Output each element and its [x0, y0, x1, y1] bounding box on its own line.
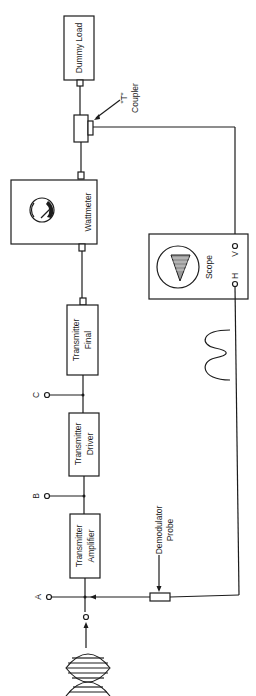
- wattmeter-label: Wattmeter: [83, 192, 93, 231]
- scope-label: Scope: [204, 255, 214, 279]
- scope-block: Scope V H: [149, 234, 248, 299]
- arrowhead-icon: [94, 114, 100, 120]
- demodulator-probe-label-line2: Probe: [165, 518, 175, 541]
- transmitter-final-label-line2: Final: [83, 331, 93, 350]
- probe-resistor-icon: [150, 593, 170, 601]
- wattmeter-block: Wattmeter: [11, 180, 97, 244]
- connector-icon: [78, 172, 84, 179]
- arrowhead-icon: [157, 586, 162, 592]
- test-point-a-label: A: [33, 594, 43, 600]
- demodulator-probe: Demodulator Probe: [150, 506, 239, 601]
- demodulated-waveform-icon: [205, 330, 230, 380]
- test-point-c: C: [31, 392, 85, 398]
- test-point-a: A: [33, 594, 150, 600]
- transmitter-driver-block: Transmitter Driver: [69, 413, 99, 476]
- transmitter-amplifier-label-line1: Transmitter: [74, 525, 84, 568]
- transmitter-amplifier-label-line2: Amplifier: [86, 529, 96, 562]
- dummy-load-block: Dummy Load: [64, 16, 94, 80]
- test-point-b: B: [31, 493, 86, 499]
- transmitter-final-label-line1: Transmitter: [71, 319, 81, 362]
- scope-v-terminal: [233, 244, 238, 249]
- leader-arrow-icon: [96, 100, 120, 118]
- t-coupler: "T" Coupler: [74, 83, 235, 142]
- input-terminal: [84, 615, 89, 620]
- transmitter-driver-label-line1: Transmitter: [73, 423, 83, 466]
- scope-terminal-h-label: H: [230, 273, 240, 279]
- t-coupler-label-line2: Coupler: [130, 83, 140, 113]
- scope-terminal-v-label: V: [230, 251, 240, 257]
- t-coupler-label-line1: "T": [119, 92, 129, 103]
- connector-icon: [79, 244, 85, 251]
- dummy-load-label: Dummy Load: [74, 22, 84, 73]
- block-diagram: Dummy Load "T" Coupler Wattmeter Scope V…: [0, 0, 256, 696]
- test-point-b-label: B: [31, 493, 41, 499]
- scope-h-terminal: [233, 282, 238, 287]
- transmitter-driver-label-line2: Driver: [85, 433, 95, 456]
- arrowhead-icon: [90, 595, 96, 600]
- connector-icon: [80, 298, 86, 305]
- wire-probe-to-scope-h: [235, 287, 239, 595]
- connector-icon: [77, 80, 83, 86]
- demodulator-probe-label-line1: Demodulator: [154, 506, 164, 555]
- test-point-c-label: C: [31, 392, 41, 398]
- transmitter-amplifier-block: Transmitter Amplifier: [70, 514, 100, 578]
- modulated-signal-icon: [66, 654, 110, 696]
- arrowhead-icon: [84, 622, 89, 628]
- transmitter-final-block: Transmitter Final: [67, 305, 98, 375]
